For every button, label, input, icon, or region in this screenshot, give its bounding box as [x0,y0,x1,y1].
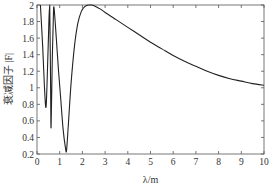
x-tick-label: 0 [35,157,40,167]
y-tick-label: 1.4 [22,50,34,60]
x-tick-label: 10 [259,157,269,167]
y-tick-label: 0.6 [22,116,34,126]
x-tick-label: 6 [171,157,176,167]
x-tick-label: 5 [148,157,153,167]
x-tick-label: 8 [216,157,221,167]
y-tick-label: 0.8 [22,100,34,110]
y-tick-label: 2 [29,1,34,11]
series-layer [40,5,264,152]
y-tick-label: 0.4 [22,133,34,143]
y-axis-ticks: 0.20.40.60.811.21.41.61.82 [22,1,264,160]
y-tick-label: 1.6 [22,34,34,44]
line-chart: 012345678910 0.20.40.60.811.21.41.61.82 … [0,0,270,189]
x-tick-label: 2 [80,157,85,167]
y-axis-label: 衰减因子 |F| [2,53,14,105]
y-tick-label: 1.8 [22,17,34,27]
y-tick-label: 1 [29,83,34,93]
x-axis-label: λ/m [143,174,159,185]
x-tick-label: 1 [57,157,62,167]
x-tick-label: 7 [194,157,199,167]
x-tick-label: 3 [103,157,108,167]
x-tick-label: 9 [239,157,244,167]
x-tick-label: 4 [125,157,130,167]
x-axis-ticks: 012345678910 [35,5,269,167]
y-tick-label: 0.2 [22,150,34,160]
y-tick-label: 1.2 [22,67,34,77]
series-line-f [40,5,264,152]
